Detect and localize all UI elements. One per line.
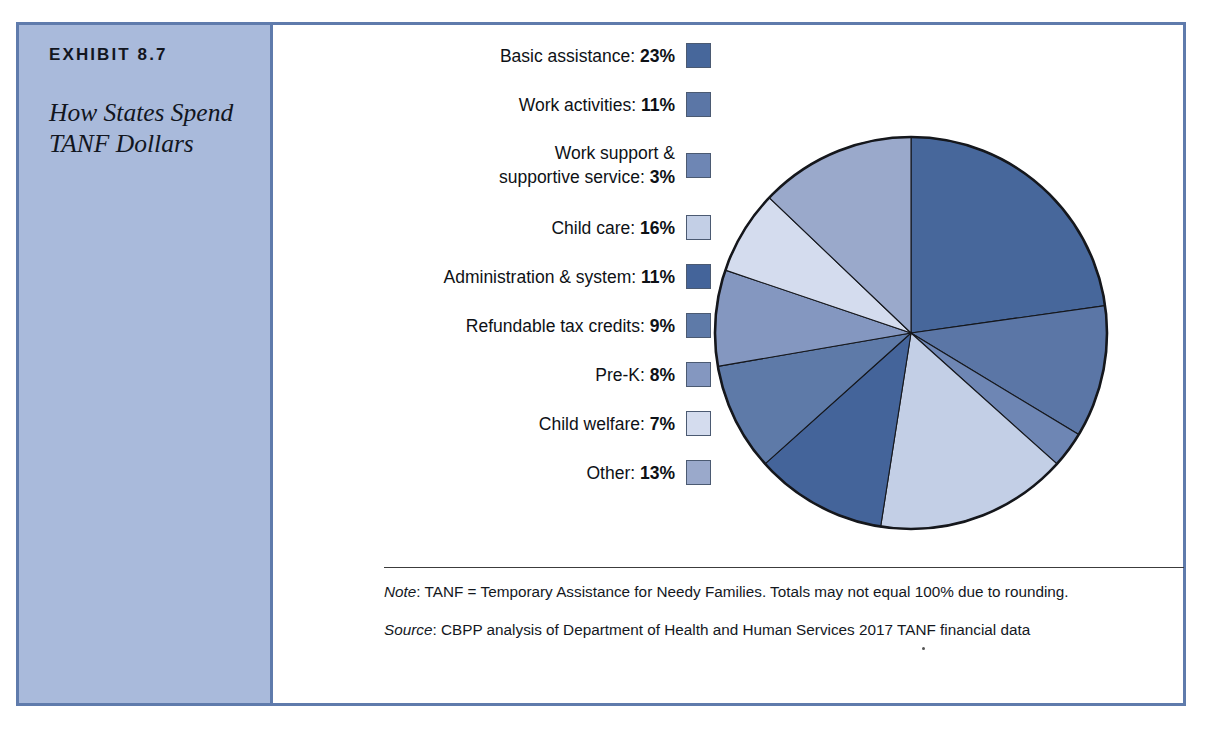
legend-item[interactable]: Other: 13%: [276, 460, 711, 485]
legend-item-swatch: [686, 362, 711, 387]
note-label: Note: [384, 583, 416, 600]
legend-item-label: Other: 13%: [586, 461, 686, 485]
exhibit-content: Basic assistance: 23%Work activities: 11…: [276, 25, 1183, 703]
legend-item-label: Work support &supportive service: 3%: [499, 141, 686, 189]
legend-item-label: Child welfare: 7%: [539, 412, 686, 436]
legend-item-label: Administration & system: 11%: [444, 265, 686, 289]
notes-divider: [384, 567, 1184, 568]
legend-item-label: Basic assistance: 23%: [500, 44, 686, 68]
pie-chart: [711, 133, 1121, 543]
legend-item-label: Refundable tax credits: 9%: [466, 314, 686, 338]
source-body: : CBPP analysis of Department of Health …: [432, 621, 1030, 638]
legend-item-label: Pre-K: 8%: [595, 363, 686, 387]
legend-item-swatch: [686, 153, 711, 178]
pie-chart-svg: [711, 133, 1121, 543]
legend-item-swatch: [686, 313, 711, 338]
legend-item[interactable]: Child welfare: 7%: [276, 411, 711, 436]
exhibit-title-panel: EXHIBIT 8.7 How States Spend TANF Dollar…: [19, 25, 273, 703]
note-line: Note: TANF = Temporary Assistance for Ne…: [384, 582, 1184, 603]
legend-item[interactable]: Administration & system: 11%: [276, 264, 711, 289]
exhibit-frame: EXHIBIT 8.7 How States Spend TANF Dollar…: [16, 22, 1186, 706]
legend-item-swatch: [686, 43, 711, 68]
source-line: Source: CBPP analysis of Department of H…: [384, 620, 1184, 641]
legend-item[interactable]: Work activities: 11%: [276, 92, 711, 117]
legend-item[interactable]: Child care: 16%: [276, 215, 711, 240]
legend-item[interactable]: Work support &supportive service: 3%: [276, 141, 711, 189]
notes-block: Note: TANF = Temporary Assistance for Ne…: [384, 567, 1184, 657]
legend-item-swatch: [686, 264, 711, 289]
exhibit-number: EXHIBIT 8.7: [49, 45, 168, 65]
legend-item-label: Child care: 16%: [551, 216, 686, 240]
source-label: Source: [384, 621, 432, 638]
exhibit-title: How States Spend TANF Dollars: [49, 97, 259, 159]
legend-item-label: Work activities: 11%: [519, 93, 686, 117]
legend-item[interactable]: Pre-K: 8%: [276, 362, 711, 387]
legend-item-swatch: [686, 92, 711, 117]
legend-item[interactable]: Refundable tax credits: 9%: [276, 313, 711, 338]
legend-item-swatch: [686, 215, 711, 240]
stray-dot-mark: [922, 647, 925, 650]
pie-legend: Basic assistance: 23%Work activities: 11…: [276, 43, 711, 485]
legend-item[interactable]: Basic assistance: 23%: [276, 43, 711, 68]
legend-item-swatch: [686, 411, 711, 436]
note-body: : TANF = Temporary Assistance for Needy …: [416, 583, 1068, 600]
pie-slice[interactable]: [911, 137, 1105, 333]
legend-item-swatch: [686, 460, 711, 485]
